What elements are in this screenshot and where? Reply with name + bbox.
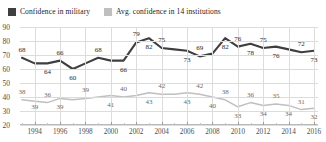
x-axis-minor-tick xyxy=(174,123,175,125)
x-axis-tick xyxy=(85,122,86,125)
data-label-average: 32 xyxy=(311,113,318,121)
data-label-average: 35 xyxy=(272,92,279,100)
data-label-average: 40 xyxy=(209,102,216,110)
data-label-military: 75 xyxy=(260,36,267,44)
data-label-average: 43 xyxy=(145,98,152,106)
x-axis-tick-label: 1998 xyxy=(78,128,92,136)
x-axis-tick-label: 2012 xyxy=(256,128,270,136)
chart-container: Confidence in military Avg. confidence i… xyxy=(0,0,326,142)
y-axis-tick-label: 20 xyxy=(0,121,10,130)
data-label-average: 41 xyxy=(107,101,114,109)
y-axis-tick-label: 60 xyxy=(0,65,10,74)
y-axis-tick-label: 90 xyxy=(0,23,10,32)
x-axis-tick xyxy=(263,122,264,125)
x-axis-minor-tick xyxy=(47,123,48,125)
chart-legend: Confidence in military Avg. confidence i… xyxy=(8,7,221,16)
x-axis-minor-tick xyxy=(73,123,74,125)
x-axis-minor-tick xyxy=(149,123,150,125)
y-axis-tick-label: 30 xyxy=(0,107,10,116)
y-axis-tick-label: 80 xyxy=(0,37,10,46)
x-axis-tick-label: 2014 xyxy=(281,128,295,136)
x-gridline xyxy=(212,27,213,125)
x-axis-minor-tick xyxy=(22,123,23,125)
x-axis-tick xyxy=(35,122,36,125)
line-average xyxy=(22,93,314,110)
data-label-average: 39 xyxy=(31,103,38,111)
x-axis-tick xyxy=(60,122,61,125)
x-axis-minor-tick xyxy=(276,123,277,125)
data-label-military: 68 xyxy=(19,46,26,54)
data-label-average: 38 xyxy=(19,88,26,96)
y-axis-tick-label: 70 xyxy=(0,51,10,60)
x-axis-tick xyxy=(187,122,188,125)
y-gridline xyxy=(20,69,318,70)
x-gridline xyxy=(85,27,86,125)
square-swatch-icon xyxy=(8,8,16,16)
x-axis-tick-label: 2016 xyxy=(307,128,321,136)
data-label-average: 31 xyxy=(298,98,305,106)
data-label-military: 79 xyxy=(133,30,140,38)
x-axis-tick-label: 2010 xyxy=(231,128,245,136)
x-gridline xyxy=(187,27,188,125)
x-gridline xyxy=(314,27,315,125)
legend-entry-military: Confidence in military xyxy=(8,7,90,16)
y-gridline xyxy=(20,41,318,42)
data-label-military: 69 xyxy=(196,44,203,52)
x-axis-tick-label: 1994 xyxy=(28,128,42,136)
x-axis-tick-label: 1996 xyxy=(53,128,67,136)
data-label-military: 68 xyxy=(95,46,102,54)
x-axis-tick xyxy=(238,122,239,125)
data-label-average: 40 xyxy=(120,85,127,93)
data-label-military: 82 xyxy=(145,43,152,51)
x-axis-tick xyxy=(136,122,137,125)
data-label-average: 34 xyxy=(285,110,292,118)
x-axis-minor-tick xyxy=(225,123,226,125)
x-axis-minor-tick xyxy=(98,123,99,125)
x-axis-minor-tick xyxy=(251,123,252,125)
legend-label-average: Avg. confidence in 14 institutions xyxy=(116,7,221,16)
plot-area: 9080706050403020199419961998200020022004… xyxy=(20,27,318,125)
data-label-military: 66 xyxy=(120,66,127,74)
x-gridline xyxy=(111,27,112,125)
x-axis-tick xyxy=(289,122,290,125)
y-axis-tick-label: 40 xyxy=(0,93,10,102)
data-label-military: 82 xyxy=(222,43,229,51)
data-label-average: 42 xyxy=(196,82,203,90)
legend-entry-average: Avg. confidence in 14 institutions xyxy=(104,7,221,16)
data-label-military: 73 xyxy=(311,56,318,64)
x-axis-tick xyxy=(111,122,112,125)
data-label-average: 42 xyxy=(158,82,165,90)
data-label-military: 78 xyxy=(247,49,254,57)
data-label-average: 39 xyxy=(82,86,89,94)
x-axis-tick-label: 2000 xyxy=(104,128,118,136)
x-axis-tick-label: 2008 xyxy=(205,128,219,136)
x-axis-minor-tick xyxy=(124,123,125,125)
data-label-average: 39 xyxy=(57,103,64,111)
x-axis-tick xyxy=(314,122,315,125)
data-label-average: 36 xyxy=(247,91,254,99)
y-gridline xyxy=(20,27,318,28)
x-axis-tick-label: 2006 xyxy=(180,128,194,136)
data-label-average: 34 xyxy=(260,110,267,118)
x-axis-tick-label: 2002 xyxy=(129,128,143,136)
line-military xyxy=(22,38,314,69)
data-label-military: 75 xyxy=(158,36,165,44)
data-label-military: 60 xyxy=(69,74,76,82)
data-label-average: 38 xyxy=(222,88,229,96)
y-axis-tick-label: 50 xyxy=(0,79,10,88)
data-label-average: 43 xyxy=(184,98,191,106)
data-label-military: 76 xyxy=(234,35,241,43)
data-label-military: 72 xyxy=(298,40,305,48)
x-axis-tick xyxy=(212,122,213,125)
data-label-average: 33 xyxy=(234,112,241,120)
x-axis-minor-tick xyxy=(200,123,201,125)
x-axis-tick-label: 2004 xyxy=(154,128,168,136)
y-gridline xyxy=(20,83,318,84)
x-axis-tick xyxy=(162,122,163,125)
data-label-military: 76 xyxy=(272,52,279,60)
square-swatch-icon xyxy=(104,8,112,16)
data-label-military: 64 xyxy=(44,68,51,76)
x-gridline xyxy=(136,27,137,125)
y-gridline xyxy=(20,111,318,112)
x-axis-minor-tick xyxy=(301,123,302,125)
